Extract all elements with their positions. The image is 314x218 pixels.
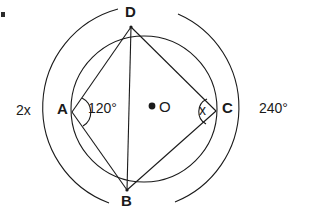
label-vertex-b: B xyxy=(121,193,132,208)
label-angle-a: 120° xyxy=(88,101,117,115)
label-vertex-a: A xyxy=(57,101,68,116)
label-vertex-d: D xyxy=(125,4,136,19)
label-arc-left: 2x xyxy=(16,103,31,117)
segment-BC xyxy=(127,111,216,190)
label-vertex-c: C xyxy=(222,100,233,115)
geometry-figure: D A B C O 120° x 2x 240° xyxy=(0,0,314,218)
center-point-dot xyxy=(149,103,156,110)
label-center-o: O xyxy=(159,99,171,114)
segment-DB-diagonal xyxy=(127,27,131,190)
segment-AB xyxy=(72,112,127,190)
segment-DC xyxy=(131,27,216,111)
vertex-dot-d xyxy=(129,25,132,28)
label-angle-c: x xyxy=(199,103,206,117)
label-arc-right: 240° xyxy=(259,101,288,115)
